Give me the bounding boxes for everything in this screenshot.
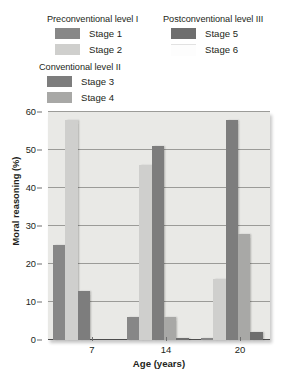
legend-group-preconventional: Preconventional level I Stage 1 Stage 2	[47, 14, 138, 58]
legend-swatch-stage-6	[171, 44, 196, 56]
bar	[53, 245, 65, 340]
y-tick-mark	[37, 302, 42, 303]
y-tick-mark	[37, 340, 42, 341]
y-tick-mark	[37, 188, 42, 189]
legend-item-stage-1: Stage 1	[47, 26, 138, 41]
legend-swatch-stage-3	[47, 76, 72, 87]
x-axis-ticks: 71420	[48, 340, 270, 358]
legend-label-stage-3: Stage 3	[81, 76, 114, 87]
y-tick-mark	[37, 112, 42, 113]
bar	[127, 317, 139, 340]
legend-swatch-stage-5	[171, 28, 196, 39]
legend-label-stage-4: Stage 4	[81, 92, 114, 103]
y-tick-label: 40	[26, 183, 36, 193]
bar	[152, 146, 164, 340]
legend-group-postconventional: Postconventional level III Stage 5 Stage…	[163, 14, 263, 58]
x-tick-mark	[92, 337, 93, 341]
y-axis-ticks: 0102030405060	[16, 108, 42, 340]
bar	[238, 234, 250, 340]
legend-item-stage-5: Stage 5	[163, 26, 263, 41]
legend-label-stage-5: Stage 5	[205, 28, 238, 39]
plot-area	[48, 112, 270, 340]
bar	[65, 120, 77, 340]
legend-swatch-stage-2	[55, 44, 80, 55]
y-tick-mark	[37, 150, 42, 151]
x-tick-label: 14	[161, 344, 172, 355]
chart-legend: Preconventional level I Stage 1 Stage 2 …	[0, 0, 292, 108]
y-tick-label: 10	[26, 297, 36, 307]
y-tick-label: 30	[26, 221, 36, 231]
y-tick-label: 20	[26, 259, 36, 269]
x-tick-mark	[240, 337, 241, 341]
legend-item-stage-3: Stage 3	[39, 74, 121, 89]
legend-group-title: Preconventional level I	[47, 14, 138, 24]
legend-swatch-stage-1	[55, 28, 80, 39]
y-tick-label: 60	[26, 107, 36, 117]
legend-item-stage-2: Stage 2	[47, 42, 138, 57]
legend-swatch-stage-4	[47, 92, 72, 103]
legend-group-title: Postconventional level III	[163, 14, 263, 24]
x-tick-label: 7	[89, 344, 94, 355]
legend-label-stage-6: Stage 6	[205, 44, 238, 55]
bar	[250, 332, 262, 340]
legend-group-title: Conventional level II	[39, 62, 121, 72]
legend-group-conventional: Conventional level II Stage 3 Stage 4	[39, 62, 121, 106]
bar-group	[201, 112, 275, 340]
legend-label-stage-2: Stage 2	[89, 44, 122, 55]
bar	[139, 165, 151, 340]
x-tick-label: 20	[235, 344, 246, 355]
bar-chart: Moral reasoning (%) 0102030405060 71420 …	[0, 108, 292, 384]
bar-group	[127, 112, 201, 340]
y-tick-mark	[37, 226, 42, 227]
bar-group	[53, 112, 127, 340]
bar	[78, 291, 90, 340]
bar	[226, 120, 238, 340]
x-axis-label: Age (years)	[48, 358, 270, 369]
bar	[213, 279, 225, 340]
y-tick-mark	[37, 264, 42, 265]
legend-label-stage-1: Stage 1	[89, 28, 122, 39]
legend-item-stage-6: Stage 6	[163, 42, 263, 57]
y-tick-label: 50	[26, 145, 36, 155]
x-tick-mark	[166, 337, 167, 341]
legend-item-stage-4: Stage 4	[39, 90, 121, 105]
y-tick-label: 0	[31, 335, 36, 345]
